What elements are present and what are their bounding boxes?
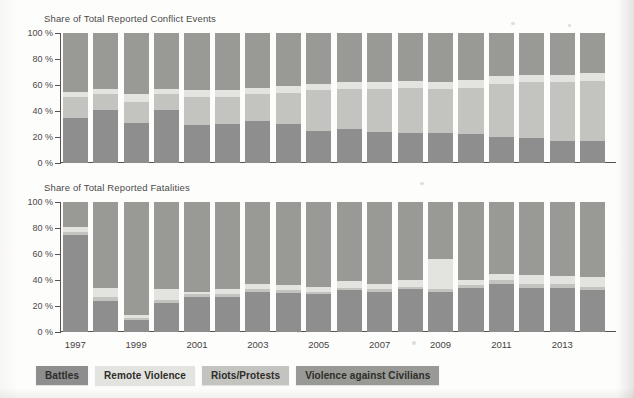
bar-segment-violence_against_civilians — [124, 202, 149, 315]
bar-1998[interactable] — [93, 33, 118, 163]
bar-2014[interactable] — [580, 202, 605, 332]
bar-2003[interactable] — [245, 202, 270, 332]
bar-1998[interactable] — [93, 202, 118, 332]
bar-segment-riots_protests — [124, 102, 149, 123]
bar-segment-violence_against_civilians — [215, 202, 240, 289]
bar-segment-battles — [398, 289, 423, 332]
y-axis-tick — [55, 111, 61, 112]
bar-2010[interactable] — [458, 33, 483, 163]
bar-2004[interactable] — [276, 202, 301, 332]
y-axis-tick-label: 0 % — [37, 327, 53, 337]
bar-2012[interactable] — [519, 202, 544, 332]
bar-segment-violence_against_civilians — [63, 202, 88, 227]
bar-2002[interactable] — [215, 33, 240, 163]
bar-segment-battles — [154, 303, 179, 332]
bar-2000[interactable] — [154, 202, 179, 332]
bar-2002[interactable] — [215, 202, 240, 332]
bar-1997[interactable] — [63, 33, 88, 163]
bar-segment-violence_against_civilians — [215, 33, 240, 90]
y-axis-tick-label: 80 % — [32, 223, 53, 233]
y-axis-tick — [55, 306, 61, 307]
y-axis-tick-label: 40 % — [32, 106, 53, 116]
bar-segment-violence_against_civilians — [306, 202, 331, 287]
bar-segment-battles — [63, 118, 88, 164]
bar-2008[interactable] — [398, 202, 423, 332]
bar-2001[interactable] — [184, 202, 209, 332]
bar-2005[interactable] — [306, 33, 331, 163]
y-axis-tick — [55, 202, 61, 203]
x-axis-tick-label: 2011 — [491, 339, 511, 350]
bar-segment-battles — [550, 141, 575, 163]
y-axis-tick-label: 100 % — [27, 28, 53, 38]
bar-segment-violence_against_civilians — [184, 202, 209, 292]
bar-segment-battles — [306, 294, 331, 332]
bar-segment-riots_protests — [154, 94, 179, 110]
legend-item-violence_against_civilians[interactable]: Violence against Civilians — [296, 366, 439, 385]
bar-2004[interactable] — [276, 33, 301, 163]
y-axis-tick — [55, 85, 61, 86]
bar-2011[interactable] — [489, 202, 514, 332]
scan-speck — [420, 182, 424, 185]
bar-2005[interactable] — [306, 202, 331, 332]
legend-item-remote_violence[interactable]: Remote Violence — [95, 366, 195, 385]
bar-segment-battles — [276, 293, 301, 332]
bar-2009[interactable] — [428, 33, 453, 163]
bar-segment-battles — [580, 141, 605, 163]
bar-1997[interactable] — [63, 202, 88, 332]
bar-2013[interactable] — [550, 33, 575, 163]
bar-segment-battles — [458, 134, 483, 163]
bar-2010[interactable] — [458, 202, 483, 332]
bar-segment-violence_against_civilians — [306, 33, 331, 84]
bar-segment-violence_against_civilians — [154, 33, 179, 89]
bar-2009[interactable] — [428, 202, 453, 332]
bar-segment-violence_against_civilians — [519, 202, 544, 275]
bar-2006[interactable] — [337, 202, 362, 332]
y-axis-tick-label: 0 % — [37, 158, 53, 168]
bar-1999[interactable] — [124, 202, 149, 332]
y-axis-tick — [55, 254, 61, 255]
bar-segment-battles — [215, 124, 240, 163]
bar-segment-riots_protests — [428, 89, 453, 133]
bar-2008[interactable] — [398, 33, 423, 163]
bar-segment-violence_against_civilians — [580, 33, 605, 73]
bar-segment-battles — [245, 292, 270, 332]
bar-segment-violence_against_civilians — [458, 33, 483, 80]
page-edge-shadow — [618, 0, 634, 398]
bar-2001[interactable] — [184, 33, 209, 163]
bar-2012[interactable] — [519, 33, 544, 163]
bar-segment-battles — [489, 284, 514, 332]
bar-segment-battles — [215, 297, 240, 332]
legend: BattlesRemote ViolenceRiots/ProtestsViol… — [36, 366, 439, 385]
bar-2000[interactable] — [154, 33, 179, 163]
bar-segment-remote_violence — [519, 275, 544, 284]
bar-2013[interactable] — [550, 202, 575, 332]
bar-segment-remote_violence — [519, 75, 544, 83]
bar-segment-violence_against_civilians — [276, 202, 301, 285]
bar-2014[interactable] — [580, 33, 605, 163]
bar-segment-riots_protests — [215, 97, 240, 124]
bar-segment-battles — [580, 290, 605, 332]
y-axis-tick — [55, 280, 61, 281]
bar-segment-violence_against_civilians — [489, 202, 514, 274]
bar-2011[interactable] — [489, 33, 514, 163]
bar-segment-violence_against_civilians — [580, 202, 605, 277]
x-axis-tick-label: 2009 — [430, 339, 451, 350]
y-axis-tick-label: 80 % — [32, 54, 53, 64]
bar-segment-battles — [398, 133, 423, 163]
bar-segment-violence_against_civilians — [458, 202, 483, 280]
bar-segment-riots_protests — [398, 88, 423, 134]
bar-2006[interactable] — [337, 33, 362, 163]
bar-segment-battles — [306, 131, 331, 164]
chart-title-fatalities: Share of Total Reported Fatalities — [44, 182, 190, 193]
bar-segment-riots_protests — [184, 97, 209, 126]
bar-segment-battles — [519, 138, 544, 163]
bar-segment-violence_against_civilians — [93, 202, 118, 288]
bar-2007[interactable] — [367, 202, 392, 332]
legend-item-battles[interactable]: Battles — [36, 366, 88, 385]
bar-segment-battles — [337, 290, 362, 332]
bar-2003[interactable] — [245, 33, 270, 163]
bar-2007[interactable] — [367, 33, 392, 163]
bar-1999[interactable] — [124, 33, 149, 163]
bar-segment-battles — [428, 292, 453, 332]
legend-item-riots_protests[interactable]: Riots/Protests — [202, 366, 289, 385]
